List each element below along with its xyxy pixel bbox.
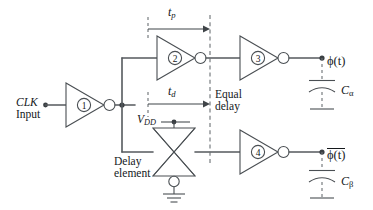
tp-label: tp: [168, 6, 176, 20]
equal-delay-label-line1: Equal: [215, 88, 242, 100]
clk-input-label: CLK Input: [16, 96, 40, 121]
clk-input-label-line1: CLK: [16, 96, 40, 108]
vdd-label-subscript: DD: [144, 118, 156, 127]
delay-element-label: Delay element: [114, 155, 150, 180]
inverter-2-bubble: [195, 53, 206, 64]
inverter-4-bubble: [278, 147, 289, 158]
clk-input-label-line2: Input: [16, 108, 40, 120]
td-label: td: [168, 85, 176, 99]
tgate-pmos-triangle: [153, 128, 195, 152]
inverter-3-number: 3: [256, 54, 261, 64]
inverter-3-bubble: [278, 53, 289, 64]
td-label-subscript: d: [171, 89, 175, 99]
phibar-output-label: ϕ(t): [327, 148, 345, 163]
capacitor-alpha-label-base: C: [341, 83, 349, 97]
figure-canvas: 1 2 3: [0, 0, 373, 210]
td-arrow-head: [203, 101, 210, 108]
phi-output-label: ϕ(t): [327, 55, 345, 69]
capacitor-beta-label-subscript: β: [349, 179, 353, 189]
vdd-label-base: V: [137, 113, 144, 125]
circuit-svg: 1 2 3: [0, 0, 373, 210]
capacitor-alpha-label-subscript: α: [349, 88, 354, 98]
phibar-output-label-text: ϕ(t): [327, 148, 345, 162]
tgate-gate-bubble: [169, 176, 179, 186]
vdd-label: VDD: [137, 113, 156, 128]
equal-delay-label: Equal delay: [215, 88, 242, 113]
delay-element-label-line1: Delay: [114, 155, 150, 167]
capacitor-alpha-bottom-plate: [309, 88, 335, 92]
tp-label-subscript: p: [171, 10, 175, 20]
capacitor-beta-label-base: C: [341, 174, 349, 188]
tgate-nmos-triangle: [153, 152, 195, 176]
inverter-1-bubble: [104, 100, 115, 111]
inverter-4-number: 4: [256, 148, 261, 158]
capacitor-alpha-label: Cα: [341, 84, 354, 98]
equal-delay-label-line2: delay: [215, 100, 242, 112]
delay-element-label-line2: element: [114, 167, 150, 179]
inverter-1-number: 1: [82, 101, 87, 111]
inverter-2-number: 2: [173, 54, 178, 64]
capacitor-beta-label: Cβ: [341, 175, 353, 189]
tp-arrow-head: [203, 26, 210, 33]
capacitor-beta-bottom-plate: [309, 178, 335, 182]
